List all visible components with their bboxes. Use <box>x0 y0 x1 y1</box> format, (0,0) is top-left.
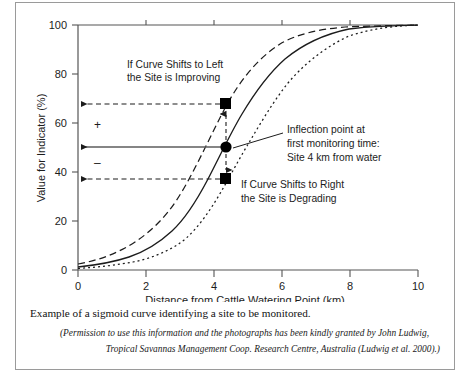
x-tick-label-10: 10 <box>412 280 424 292</box>
annotation-inflection: Inflection point at first monitoring tim… <box>287 124 382 163</box>
sigmoid-chart: 100 80 60 40 20 0 <box>15 2 455 302</box>
x-axis-title: Distance from Cattle Watering Point (km) <box>145 294 344 302</box>
figure-caption-block: Example of a sigmoid curve identifying a… <box>24 306 448 357</box>
annotation-degrading: If Curve Shifts to Right the Site is Deg… <box>241 179 344 204</box>
minus-sign-label: – <box>94 156 101 170</box>
annotation-improving: If Curve Shifts to Left the Site is Impr… <box>127 59 223 83</box>
figure-caption-credit-line-2: Tropical Savannas Management Coop. Resea… <box>60 342 442 358</box>
x-tick-label-4: 4 <box>211 280 217 292</box>
figure-page: 100 80 60 40 20 0 <box>0 0 467 382</box>
x-tick-label-8: 8 <box>347 280 353 292</box>
x-ticks <box>78 270 418 277</box>
x-ticks-top <box>146 20 350 25</box>
y-axis-title: Value for Indicator (%) <box>35 94 47 203</box>
x-tick-label-2: 2 <box>143 280 149 292</box>
y-tick-label-0: 0 <box>61 264 67 276</box>
y-tick-labels: 100 80 60 40 20 0 <box>49 19 67 276</box>
annotation-degrading-line-1: If Curve Shifts to Right <box>241 179 344 190</box>
inflection-leader-line <box>233 133 283 148</box>
marker-lower-square <box>220 173 231 184</box>
y-ticks <box>72 25 78 270</box>
x-tick-labels: 0 2 4 6 8 10 <box>75 280 424 292</box>
plus-sign-label: + <box>94 118 101 132</box>
chart-figure: 100 80 60 40 20 0 <box>15 2 455 302</box>
marker-inflection-circle <box>220 141 231 152</box>
x-tick-label-6: 6 <box>279 280 285 292</box>
marker-upper-square <box>220 98 231 109</box>
figure-caption-credit: (Permission to use this information and … <box>24 326 448 357</box>
figure-caption-credit-line-1: (Permission to use this information and … <box>60 326 442 342</box>
annotation-inflection-line-3: Site 4 km from water <box>287 152 382 163</box>
y-tick-label-40: 40 <box>55 166 67 178</box>
annotation-degrading-line-2: the Site is Degrading <box>241 193 337 204</box>
y-tick-label-20: 20 <box>55 215 67 227</box>
y-tick-label-80: 80 <box>55 68 67 80</box>
y-tick-label-100: 100 <box>49 19 67 31</box>
annotation-inflection-line-1: Inflection point at <box>287 124 365 135</box>
annotation-improving-line-1: If Curve Shifts to Left <box>127 59 223 70</box>
x-tick-label-0: 0 <box>75 280 81 292</box>
y-tick-label-60: 60 <box>55 117 67 129</box>
figure-caption-main: Example of a sigmoid curve identifying a… <box>24 306 448 321</box>
annotation-improving-line-2: the Site is Improving <box>127 72 221 83</box>
annotation-inflection-line-2: first monitoring time: <box>287 138 380 149</box>
